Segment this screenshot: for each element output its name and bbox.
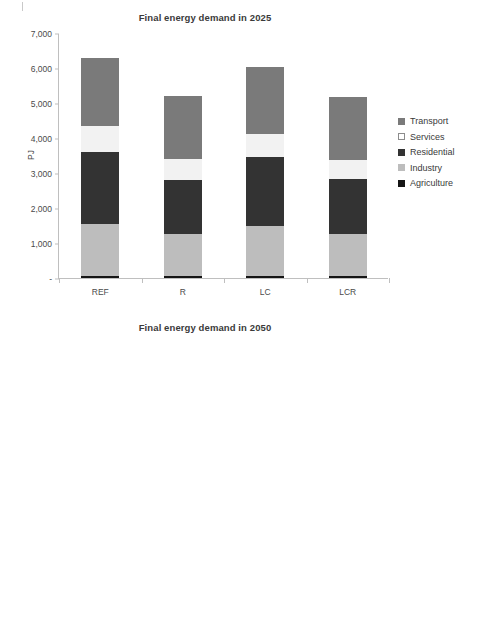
- legend-swatch-icon: [398, 149, 405, 156]
- bar-group: R: [142, 34, 225, 278]
- bar-segment-agriculture[interactable]: [329, 276, 367, 278]
- bar-segment-transport[interactable]: [329, 97, 367, 160]
- x-axis-tick-mark: [224, 278, 225, 283]
- bar-segment-agriculture[interactable]: [81, 276, 119, 278]
- stacked-bar[interactable]: [246, 67, 284, 278]
- bar-segment-industry[interactable]: [164, 234, 202, 276]
- chart-2025-legend: TransportServicesResidentialIndustryAgri…: [398, 116, 455, 194]
- bar-segment-services[interactable]: [329, 160, 367, 179]
- x-axis-tick-mark: [59, 278, 60, 283]
- legend-swatch-icon: [398, 164, 405, 171]
- x-axis-tick-label-lcr: LCR: [339, 287, 356, 297]
- bar-segment-services[interactable]: [81, 126, 119, 152]
- bar-group: REF: [59, 34, 142, 278]
- legend-item-label: Transport: [410, 116, 448, 126]
- bar-segment-transport[interactable]: [246, 67, 284, 134]
- legend-item-label: Agriculture: [410, 178, 453, 188]
- bar-segment-agriculture[interactable]: [164, 276, 202, 278]
- legend-swatch-icon: [398, 118, 405, 125]
- bar-segment-industry[interactable]: [329, 234, 367, 276]
- x-axis-tick-label-ref: REF: [92, 287, 109, 297]
- x-axis-tick-mark: [389, 278, 390, 283]
- bar-segment-residential[interactable]: [81, 152, 119, 224]
- x-axis-tick-label-r: R: [180, 287, 186, 297]
- legend-item-label: Residential: [410, 147, 455, 157]
- x-axis-tick-mark: [142, 278, 143, 283]
- bar-segment-residential[interactable]: [246, 157, 284, 226]
- bar-segment-residential[interactable]: [164, 180, 202, 234]
- stacked-bar[interactable]: [81, 58, 119, 278]
- bar-segment-services[interactable]: [246, 134, 284, 157]
- chart-2050: Final energy demand in 2050 PJ 7,0006,00…: [0, 314, 490, 629]
- bar-segment-industry[interactable]: [246, 226, 284, 275]
- bar-segment-industry[interactable]: [81, 224, 119, 276]
- stacked-bar[interactable]: [164, 96, 202, 278]
- legend-item-transport[interactable]: Transport: [398, 116, 455, 126]
- x-axis-tick-label-lc: LC: [260, 287, 271, 297]
- legend-item-label: Services: [410, 132, 445, 142]
- bar-group: LC: [224, 34, 307, 278]
- x-axis-tick-mark: [307, 278, 308, 283]
- bar-group: LCR: [307, 34, 390, 278]
- bar-segment-residential[interactable]: [329, 179, 367, 235]
- legend-item-industry[interactable]: Industry: [398, 163, 455, 173]
- chart-2025-y-axis-label: PJ: [26, 150, 36, 160]
- stacked-bar[interactable]: [329, 97, 367, 278]
- legend-item-residential[interactable]: Residential: [398, 147, 455, 157]
- chart-2025-title: Final energy demand in 2025: [0, 12, 490, 23]
- legend-swatch-icon: [398, 133, 405, 140]
- bar-segment-agriculture[interactable]: [246, 276, 284, 278]
- bar-segment-services[interactable]: [164, 159, 202, 180]
- legend-item-services[interactable]: Services: [398, 132, 455, 142]
- chart-2050-title: Final energy demand in 2050: [0, 322, 490, 333]
- bar-segment-transport[interactable]: [164, 96, 202, 159]
- legend-item-agriculture[interactable]: Agriculture: [398, 178, 455, 188]
- legend-item-label: Industry: [410, 163, 442, 173]
- chart-2025-plot-area: 7,0006,0005,0004,0003,0002,0001,000-REFR…: [58, 34, 388, 279]
- legend-swatch-icon: [398, 180, 405, 187]
- bar-segment-transport[interactable]: [81, 58, 119, 126]
- chart-2025: Final energy demand in 2025 PJ 7,0006,00…: [0, 0, 490, 314]
